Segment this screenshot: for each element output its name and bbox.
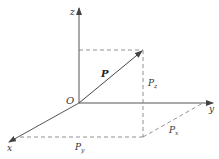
y-axis-label: y (208, 104, 215, 114)
x-axis-label: x (7, 143, 12, 153)
vector-diagram: z y x O P Pz Px Py (0, 0, 219, 159)
vector-p-label: P (100, 68, 109, 79)
z-axis-label: z (69, 7, 75, 17)
px-label: Px (168, 125, 179, 136)
pz-label: Pz (147, 78, 158, 89)
origin-label: O (66, 95, 74, 106)
x-axis (9, 103, 79, 142)
vector-p (79, 51, 142, 103)
py-label: Py (74, 142, 85, 154)
